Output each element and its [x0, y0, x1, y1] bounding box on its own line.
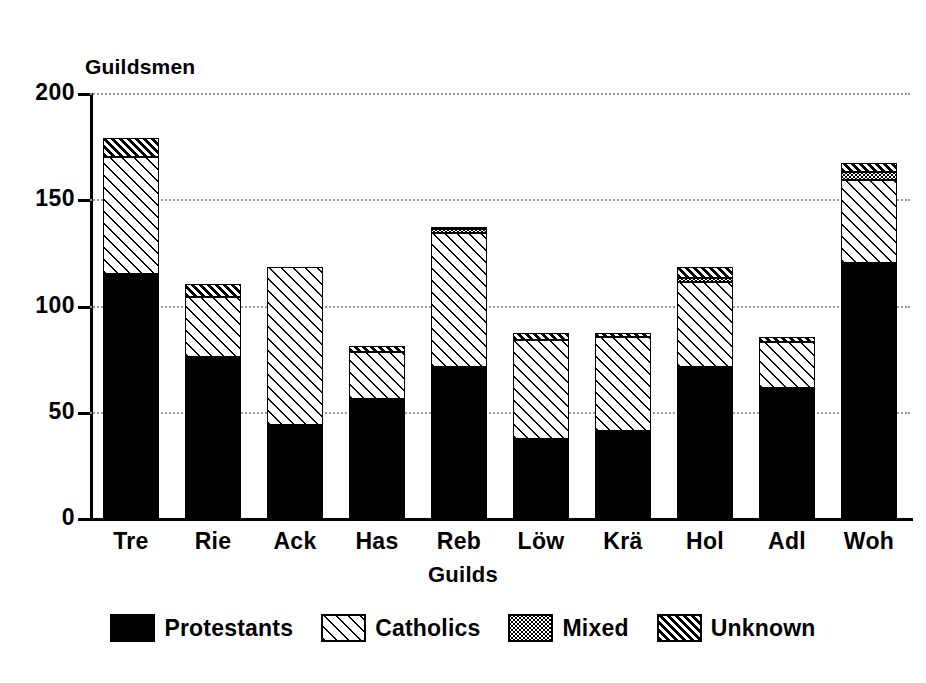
bar-segment-catholics[interactable]: [595, 337, 651, 431]
diagonal-hatch-sparse-swatch: [321, 614, 366, 642]
bar-segment-catholics[interactable]: [677, 282, 733, 367]
bar-segment-catholics[interactable]: [103, 157, 159, 274]
y-axis-tick-mark: [78, 306, 90, 309]
stacked-bar-chart-figure: Guildsmen 200150100500 TreRieAckHasRebLö…: [0, 0, 926, 683]
y-axis-tick-mark: [78, 412, 90, 415]
legend-label: Catholics: [375, 615, 480, 642]
legend-label: Protestants: [164, 615, 293, 642]
bar-segment-protestants[interactable]: [759, 388, 815, 518]
bar-segment-protestants[interactable]: [841, 263, 897, 518]
bar-segment-catholics[interactable]: [431, 233, 487, 367]
chart-legend: ProtestantsCatholicsMixedUnknown: [0, 614, 926, 642]
y-axis-tick-mark: [78, 518, 90, 521]
bar-segment-protestants[interactable]: [267, 425, 323, 519]
bar-segment-mixed[interactable]: [677, 278, 733, 282]
x-axis-tick-label: Woh: [814, 528, 924, 555]
bar-segment-protestants[interactable]: [595, 431, 651, 518]
y-axis-tick-label: 0: [0, 504, 75, 531]
bar-segment-catholics[interactable]: [349, 352, 405, 399]
bar-segment-unknown[interactable]: [677, 267, 733, 278]
bar-segment-unknown[interactable]: [103, 138, 159, 157]
y-axis-tick-label: 50: [0, 398, 75, 425]
legend-item[interactable]: Protestants: [110, 614, 293, 642]
diagonal-hatch-dense-swatch: [657, 614, 702, 642]
dotted-stipple-swatch: [508, 614, 553, 642]
bar-segment-mixed[interactable]: [841, 172, 897, 181]
bar-segment-catholics[interactable]: [513, 340, 569, 440]
bar-segment-catholics[interactable]: [267, 267, 323, 424]
y-axis-tick-mark: [78, 93, 90, 96]
bar-segment-unknown[interactable]: [185, 284, 241, 297]
y-axis-tick-mark: [78, 199, 90, 202]
bars-layer: [90, 93, 910, 518]
y-axis-tick-label: 150: [0, 185, 75, 212]
bar-segment-unknown[interactable]: [759, 337, 815, 341]
bar-segment-protestants[interactable]: [677, 367, 733, 518]
bar-segment-protestants[interactable]: [185, 357, 241, 519]
bar-segment-catholics[interactable]: [185, 297, 241, 357]
legend-item[interactable]: Catholics: [321, 614, 480, 642]
bar-segment-protestants[interactable]: [513, 439, 569, 518]
solid-black-swatch: [110, 614, 155, 642]
bar-segment-catholics[interactable]: [841, 180, 897, 263]
bar-segment-protestants[interactable]: [431, 367, 487, 518]
legend-label: Unknown: [711, 615, 816, 642]
y-axis-title: Guildsmen: [85, 55, 195, 79]
legend-item[interactable]: Mixed: [508, 614, 628, 642]
x-axis-title: Guilds: [0, 562, 926, 588]
y-axis-tick-label: 100: [0, 292, 75, 319]
bar-segment-catholics[interactable]: [759, 342, 815, 389]
bar-segment-unknown[interactable]: [431, 227, 487, 229]
bar-segment-unknown[interactable]: [349, 346, 405, 352]
bar-segment-protestants[interactable]: [103, 274, 159, 518]
bar-segment-unknown[interactable]: [841, 163, 897, 172]
legend-label: Mixed: [562, 615, 628, 642]
legend-item[interactable]: Unknown: [657, 614, 816, 642]
bar-segment-mixed[interactable]: [431, 229, 487, 233]
bar-segment-unknown[interactable]: [595, 333, 651, 337]
bar-segment-unknown[interactable]: [513, 333, 569, 339]
bar-segment-protestants[interactable]: [349, 399, 405, 518]
y-axis-tick-label: 200: [0, 79, 75, 106]
